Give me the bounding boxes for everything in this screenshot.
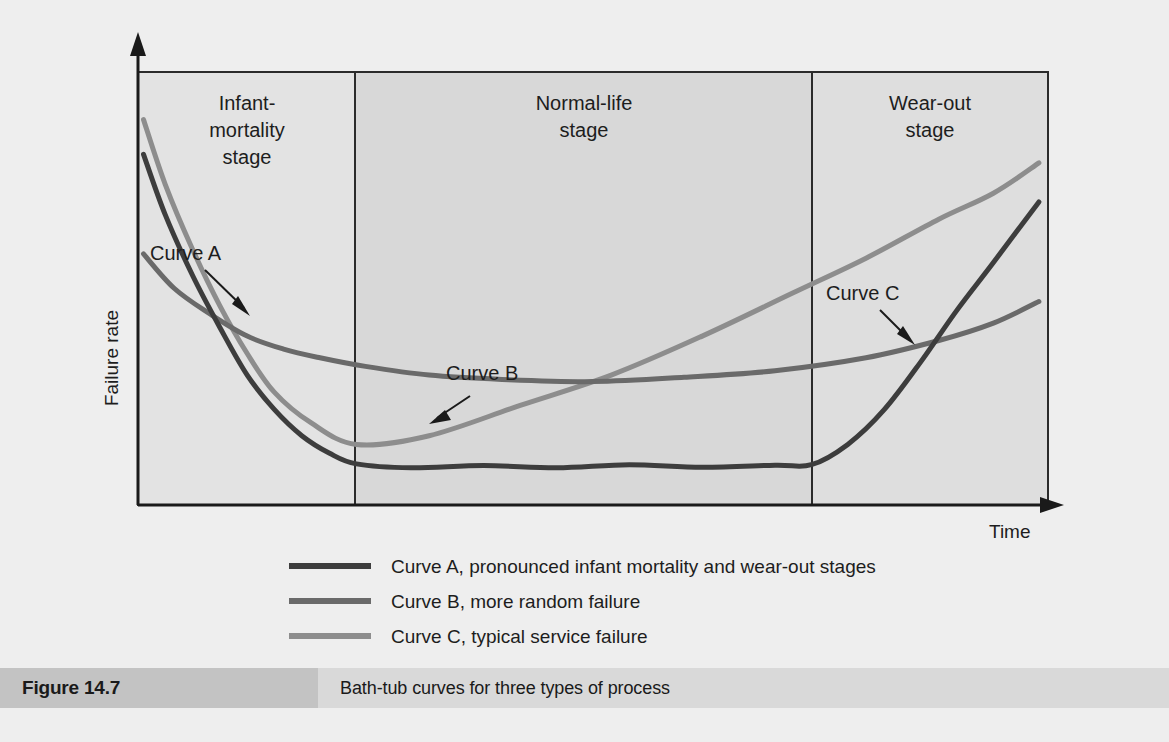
region-label-infant-line3: stage xyxy=(223,146,272,168)
region-label-normal-line1: Normal-life xyxy=(536,92,633,114)
legend-label-curve-b: Curve B, more random failure xyxy=(391,591,640,612)
legend-label-curve-c: Curve C, typical service failure xyxy=(391,626,648,647)
figure-number: Figure 14.7 xyxy=(22,677,120,699)
legend-label-curve-a: Curve A, pronounced infant mortality and… xyxy=(391,556,876,577)
annotation-label-curve-a: Curve A xyxy=(150,242,222,264)
figure-number-box: Figure 14.7 xyxy=(0,668,318,708)
region-label-infant-line2: mortality xyxy=(209,119,285,141)
region-label-normal-line2: stage xyxy=(560,119,609,141)
figure-page: Failure rate Time Infant- mortality stag… xyxy=(0,0,1169,742)
bath-tub-curve-chart: Failure rate Time Infant- mortality stag… xyxy=(0,0,1169,648)
x-axis-label: Time xyxy=(989,521,1031,542)
figure-caption-text: Bath-tub curves for three types of proce… xyxy=(318,678,670,699)
y-axis-arrow-icon xyxy=(130,32,146,56)
region-label-infant-line1: Infant- xyxy=(219,92,276,114)
figure-graphic: Failure rate Time Infant- mortality stag… xyxy=(0,0,1169,648)
region-label-wearout-line1: Wear-out xyxy=(889,92,971,114)
figure-caption-bar: Figure 14.7 Bath-tub curves for three ty… xyxy=(0,668,1169,708)
region-label-wearout-line2: stage xyxy=(906,119,955,141)
chart-legend: Curve A, pronounced infant mortality and… xyxy=(289,556,876,647)
annotation-label-curve-b: Curve B xyxy=(446,362,518,384)
x-axis-arrow-icon xyxy=(1040,497,1064,513)
y-axis-label: Failure rate xyxy=(101,310,122,406)
annotation-label-curve-c: Curve C xyxy=(826,282,899,304)
